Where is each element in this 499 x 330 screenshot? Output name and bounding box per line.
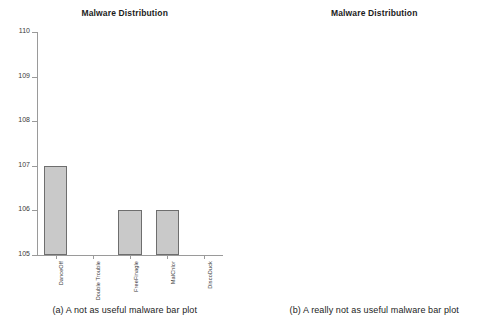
panel-a-plot-area: 105106107108109110 DanceOffDouble Troubl… [37, 32, 223, 255]
bar-danceoff [44, 166, 67, 255]
y-tick-mark [32, 255, 37, 256]
x-tick-label-freefinagle: FreeFinagle [133, 261, 139, 292]
panel-a: Malware Distribution 105106107108109110 … [0, 0, 250, 330]
x-tick-mark [204, 255, 205, 259]
x-tick-label-discoduck: DiscoDuck [207, 261, 213, 289]
y-tick-label: 108 [18, 116, 30, 123]
x-tick-mark [130, 255, 131, 259]
x-tick-label-malchlor: MalChlor [170, 261, 176, 284]
panel-a-title: Malware Distribution [0, 8, 250, 18]
bar-freefinagle [118, 210, 141, 255]
y-tick-label: 110 [19, 27, 30, 34]
x-tick-label-double-trouble: Double Trouble [95, 261, 101, 300]
panel-a-caption: (a) A not as useful malware bar plot [0, 305, 250, 315]
panel-a-bars [37, 32, 223, 255]
bar-malchlor [156, 210, 179, 255]
y-tick-label: 105 [18, 250, 30, 257]
x-tick-mark [56, 255, 57, 259]
y-tick-label: 107 [18, 161, 30, 168]
y-tick-label: 106 [18, 205, 30, 212]
x-tick-mark [93, 255, 94, 259]
x-tick-mark [167, 255, 168, 259]
y-tick-label: 109 [18, 72, 30, 79]
panel-b: Malware Distribution DanceOffDouble Trou… [250, 0, 499, 330]
panel-b-caption: (b) A really not as useful malware bar p… [250, 305, 499, 315]
x-tick-label-danceoff: DanceOff [58, 261, 64, 285]
malware-distribution-figure: Malware Distribution 105106107108109110 … [0, 0, 499, 330]
panel-b-title: Malware Distribution [250, 8, 499, 18]
